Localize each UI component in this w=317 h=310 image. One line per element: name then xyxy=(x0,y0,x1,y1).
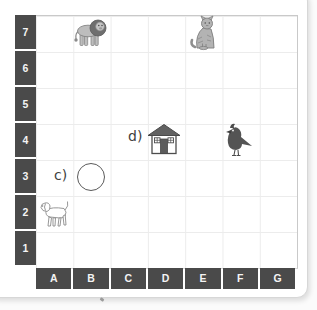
row-header-2: 2 xyxy=(15,195,36,229)
label-d: d) xyxy=(128,128,142,144)
row-header-1: 1 xyxy=(15,231,36,265)
col-header-f: F xyxy=(223,268,258,289)
dog-icon xyxy=(38,198,71,232)
circle-shape xyxy=(77,163,105,191)
worksheet-page: 7 6 5 4 3 2 1 A B C D E F G xyxy=(0,0,317,310)
col-header-b: B xyxy=(73,268,108,289)
cat-icon xyxy=(188,15,220,51)
col-header-g: G xyxy=(260,268,295,289)
row-header-4: 4 xyxy=(15,123,36,157)
col-header-d: D xyxy=(148,268,183,289)
col-header-c: C xyxy=(111,268,146,289)
lion-icon xyxy=(72,16,108,51)
row-header-3: 3 xyxy=(15,159,36,193)
row-header-7: 7 xyxy=(15,15,36,49)
col-header-a: A xyxy=(36,268,71,289)
col-header-e: E xyxy=(185,268,220,289)
bird-icon xyxy=(222,122,254,160)
row-header-5: 5 xyxy=(15,87,36,121)
row-header-6: 6 xyxy=(15,51,36,85)
house-icon xyxy=(145,122,183,157)
label-c: c) xyxy=(54,167,67,183)
